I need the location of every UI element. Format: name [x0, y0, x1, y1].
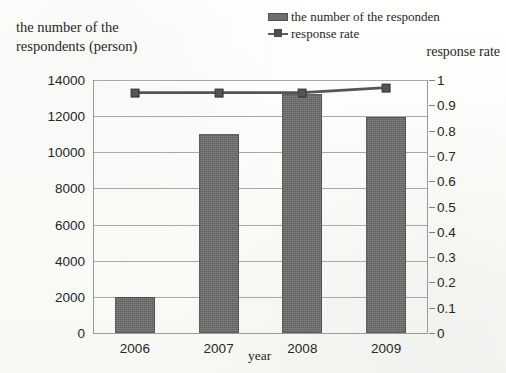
- right-tick-label: 0.5: [437, 199, 456, 214]
- right-tick-mark: [429, 131, 435, 132]
- left-tick-label: 2000: [55, 289, 85, 304]
- right-axis-tick-labels: 10.90.80.70.60.50.40.30.20.10: [437, 80, 497, 333]
- right-tick-mark: [429, 105, 435, 106]
- x-tick-label: 2008: [287, 341, 317, 356]
- right-tick-mark: [429, 156, 435, 157]
- right-tick-mark: [429, 181, 435, 182]
- left-tick-label: 4000: [55, 253, 85, 268]
- x-tick-label: 2006: [120, 341, 150, 356]
- left-tick-label: 10000: [47, 145, 85, 160]
- left-axis-title: the number of the respondents (person): [16, 18, 137, 56]
- line-marker: [298, 88, 307, 97]
- right-tick-label: 0.7: [437, 148, 456, 163]
- response-rate-line: [93, 80, 428, 333]
- line-marker: [130, 88, 139, 97]
- right-tick-label: 0.8: [437, 123, 456, 138]
- plot-area: [93, 80, 428, 333]
- right-tick-mark: [429, 80, 435, 81]
- chart-legend: the number of the responden response rat…: [268, 8, 440, 42]
- left-tick-label: 12000: [47, 109, 85, 124]
- left-axis-tick-labels: 14000120001000080006000400020000: [0, 80, 85, 333]
- right-tick-label: 0.4: [437, 224, 456, 239]
- right-tick-label: 0.1: [437, 300, 456, 315]
- right-tick-mark: [429, 333, 435, 334]
- left-tick-label: 0: [77, 326, 85, 341]
- line-path: [135, 88, 386, 93]
- gridline: [93, 333, 428, 334]
- right-tick-label: 1: [437, 73, 445, 88]
- line-marker: [214, 88, 223, 97]
- right-tick-label: 0.6: [437, 174, 456, 189]
- legend-label-line: response rate: [291, 26, 359, 41]
- right-tick-mark: [429, 308, 435, 309]
- line-series: [93, 80, 428, 333]
- line-marker-swatch-icon: [268, 29, 288, 38]
- right-tick-mark: [429, 257, 435, 258]
- right-axis-title: response rate: [427, 44, 500, 60]
- legend-label-bars: the number of the responden: [291, 9, 440, 24]
- right-tick-mark: [429, 282, 435, 283]
- left-tick-label: 8000: [55, 181, 85, 196]
- right-tick-label: 0.3: [437, 250, 456, 265]
- left-tick-label: 14000: [47, 73, 85, 88]
- line-marker: [382, 83, 391, 92]
- x-tick-label: 2007: [204, 341, 234, 356]
- right-tick-mark: [429, 232, 435, 233]
- right-tick-label: 0.2: [437, 275, 456, 290]
- legend-item-line: response rate: [268, 25, 440, 42]
- right-tick-mark: [429, 207, 435, 208]
- x-tick-label: 2009: [371, 341, 401, 356]
- x-axis-title: year: [248, 348, 271, 364]
- left-tick-label: 6000: [55, 217, 85, 232]
- bar-swatch-icon: [268, 13, 288, 21]
- right-tick-label: 0: [437, 326, 445, 341]
- right-tick-label: 0.9: [437, 98, 456, 113]
- legend-item-bars: the number of the responden: [268, 8, 440, 25]
